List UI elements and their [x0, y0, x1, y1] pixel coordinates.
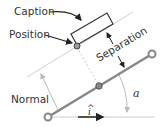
middle-node	[96, 83, 102, 89]
position-node	[74, 43, 80, 49]
caption-diagram: Caption Position Normal Separation a ^ i	[0, 0, 165, 127]
start-node	[45, 114, 52, 121]
caption-box	[71, 13, 113, 45]
separation-arrow-down	[118, 56, 124, 67]
unit-vector-label: i	[88, 107, 91, 117]
caption-label: Caption	[14, 5, 55, 17]
position-label: Position	[9, 28, 50, 40]
end-node	[149, 51, 156, 58]
caption-pointer-arrow	[50, 12, 81, 20]
normal-label: Normal	[11, 93, 49, 105]
angle-arc	[118, 73, 127, 112]
angle-label: a	[133, 87, 140, 100]
